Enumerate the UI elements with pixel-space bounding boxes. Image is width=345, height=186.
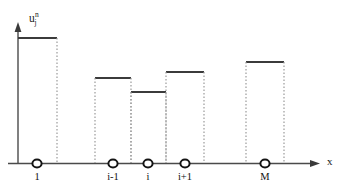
tick-label-M: M — [260, 172, 269, 183]
tick-label-i-plus-1: i+1 — [178, 172, 192, 183]
cell-bar-M — [246, 62, 284, 163]
y-axis-label-subscript: j — [35, 18, 37, 27]
cell-bar-i — [131, 92, 166, 163]
y-axis-arrow-icon — [15, 22, 22, 32]
cell-bar-1 — [18, 38, 57, 163]
tick-label-1: 1 — [34, 172, 39, 183]
grid-node-marker-i-minus-1 — [108, 160, 117, 168]
cell-bar-i-minus-1 — [95, 78, 131, 163]
grid-node-marker-i-plus-1 — [180, 160, 189, 168]
tick-label-i-minus-1: i-1 — [107, 172, 119, 183]
cell-bar-i-plus-1 — [166, 72, 204, 163]
grid-node-marker-1 — [32, 160, 41, 168]
tick-label-i: i — [147, 172, 150, 183]
y-axis-label-base: u — [29, 12, 35, 24]
grid-node-marker-M — [260, 160, 269, 168]
figure-canvas: unj x 1 i-1 i i+1 M — [0, 0, 345, 186]
diagram-svg — [0, 0, 345, 186]
y-axis-label: unj — [29, 13, 37, 25]
x-axis-arrow-icon — [310, 160, 320, 167]
grid-node-marker-i — [143, 160, 152, 168]
x-axis-label: x — [327, 156, 333, 167]
